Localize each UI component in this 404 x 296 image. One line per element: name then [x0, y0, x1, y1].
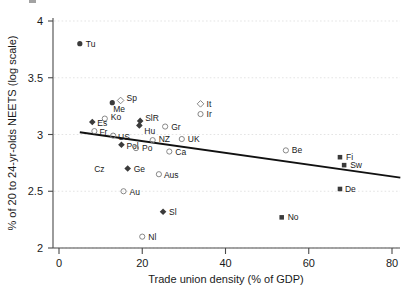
y-tick-label: 3: [37, 129, 43, 141]
point-label-sl: Sl: [169, 207, 177, 217]
x-tick-label: 60: [303, 257, 315, 269]
point-label-slr: SlR: [145, 113, 159, 123]
chart-canvas: 22.533.54 020406080 TuSpMeItIrKoEsSlRHuG…: [0, 0, 404, 296]
point-label-ir: Ir: [207, 109, 212, 119]
marker-filled-square: [342, 163, 347, 168]
point-label-uk: UK: [188, 134, 200, 144]
marker-filled-square: [338, 187, 343, 192]
scan-artifact: [29, 0, 36, 3]
point-label-ko: Ko: [111, 112, 122, 122]
point-label-hu: Hu: [144, 126, 155, 136]
point-label-au: Au: [130, 187, 141, 197]
y-tick-label: 4: [37, 15, 43, 27]
x-tick-label: 20: [136, 257, 148, 269]
point-label-de: De: [345, 184, 356, 194]
point-label-ge: Ge: [134, 164, 146, 174]
x-tick-label: 0: [56, 257, 62, 269]
x-axis-title: Trade union density (% of GDP): [148, 273, 304, 285]
point-label-nl: Nl: [148, 232, 156, 242]
y-axis-title: % of 20 to 24-yr-olds NEETS (log scale): [6, 35, 18, 230]
point-label-sw: Sw: [350, 160, 363, 170]
point-label-it: It: [207, 99, 212, 109]
data-point-cz: Cz: [94, 164, 104, 174]
point-label-no: No: [288, 212, 299, 222]
y-tick-label: 2: [37, 242, 43, 254]
x-tick-label: 40: [219, 257, 231, 269]
marker-filled-circle: [77, 41, 82, 46]
point-label-ca: Ca: [175, 147, 186, 157]
point-label-gr: Gr: [171, 122, 181, 132]
chart-background: [0, 0, 404, 296]
point-label-nz: NZ: [159, 134, 170, 144]
point-label-aus: Aus: [164, 170, 179, 180]
point-label-cz: Cz: [94, 164, 104, 174]
point-label-be: Be: [292, 145, 303, 155]
point-label-tu: Tu: [86, 39, 96, 49]
marker-filled-square: [338, 155, 343, 160]
scatter-chart-figure: 22.533.54 020406080 TuSpMeItIrKoEsSlRHuG…: [0, 0, 404, 296]
y-tick-label: 3.5: [28, 72, 43, 84]
point-label-po: Po: [142, 143, 153, 153]
point-label-fr: Fr: [99, 127, 107, 137]
point-label-sp: Sp: [127, 93, 138, 103]
y-tick-label: 2.5: [28, 185, 43, 197]
x-tick-label: 80: [386, 257, 398, 269]
marker-filled-square: [279, 215, 284, 220]
